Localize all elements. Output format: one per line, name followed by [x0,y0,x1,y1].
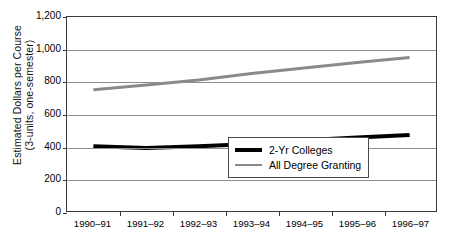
legend-label-0: 2-Yr Colleges [269,144,333,156]
x-axis-tick-mark [385,211,386,216]
x-axis-tick-label: 1993–94 [225,218,278,230]
x-axis-tick-labels: 1990–911991–921992–931993–941994–951995–… [66,218,437,234]
y-axis-tick-mark [63,213,67,214]
y-axis-tick-mark [63,82,67,83]
gridline [67,115,436,116]
legend-label-1: All Degree Granting [269,159,361,171]
legend-line-swatch-icon [235,160,262,170]
x-axis-tick-label: 1995–96 [331,218,384,230]
plot-area [66,16,437,212]
gridline [67,180,436,181]
x-axis-tick-mark [279,211,280,216]
y-axis-tick-label: 1,000 [36,44,61,54]
x-axis-tick-mark [332,211,333,216]
legend-item-1: All Degree Granting [235,157,361,172]
chart-legend: 2-Yr Colleges All Degree Granting [228,137,369,178]
series-line-1 [93,57,409,89]
series-lines [67,17,436,211]
y-axis-tick-mark [63,180,67,181]
x-axis-tick-mark [173,211,174,216]
y-axis-tick-mark [63,50,67,51]
y-axis-tick-mark [63,17,67,18]
x-axis-tick-label: 1996–97 [384,218,437,230]
legend-line-swatch-icon [235,145,262,155]
x-axis-tick-label: 1992–93 [172,218,225,230]
x-axis-tick-label: 1990–91 [66,218,119,230]
y-axis-tick-label: 1,200 [36,11,61,21]
x-axis-tick-mark [120,211,121,216]
x-axis-tick-label: 1991–92 [119,218,172,230]
y-axis-tick-label: 800 [44,76,61,86]
gridline [67,82,436,83]
x-axis-tick-label: 1994–95 [278,218,331,230]
y-axis-tick-label: 0 [55,207,61,217]
y-axis-tick-label: 200 [44,174,61,184]
y-axis-tick-mark [63,115,67,116]
y-axis-tick-label: 600 [44,109,61,119]
y-axis-tick-mark [63,148,67,149]
line-chart-figure: Estimated Dollars per Course (3-units, o… [0,0,450,248]
x-axis-tick-mark [226,211,227,216]
gridline [67,50,436,51]
y-axis-tick-label: 400 [44,142,61,152]
legend-item-0: 2-Yr Colleges [235,142,361,157]
y-axis-tick-labels: 02004006008001,0001,200 [12,0,64,248]
